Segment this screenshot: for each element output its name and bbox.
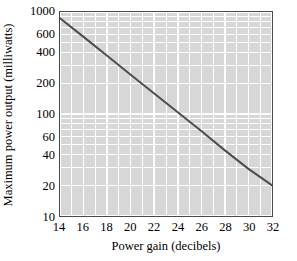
x-axis-tick-label: 32 xyxy=(267,221,280,234)
x-axis-tick-label: 30 xyxy=(243,221,256,234)
x-axis-tick-labels: 14161820222426283032 xyxy=(0,221,297,237)
x-axis-tick-label: 16 xyxy=(77,221,90,234)
chart-figure: Maximum power output (milliwatts) 102040… xyxy=(0,0,297,261)
y-axis-tick-label: 1000 xyxy=(30,5,55,18)
x-axis-tick-label: 20 xyxy=(124,221,137,234)
x-axis-title: Power gain (decibels) xyxy=(59,239,273,253)
x-axis-tick-label: 28 xyxy=(219,221,232,234)
y-axis-tick-label: 600 xyxy=(36,28,55,41)
y-axis-tick-label: 100 xyxy=(36,108,55,121)
x-axis-tick-label: 26 xyxy=(195,221,208,234)
plot-area xyxy=(59,11,273,217)
y-axis-tick-label: 200 xyxy=(36,77,55,90)
x-axis-tick-label: 14 xyxy=(53,221,66,234)
x-axis-tick-label: 22 xyxy=(148,221,161,234)
y-axis-tick-label: 20 xyxy=(43,180,56,193)
y-axis-tick-label: 40 xyxy=(43,149,56,162)
y-axis-tick-label: 400 xyxy=(36,46,55,59)
x-axis-tick-label: 18 xyxy=(100,221,113,234)
y-axis-tick-label: 60 xyxy=(43,131,56,144)
data-series-line xyxy=(60,12,272,216)
x-axis-tick-label: 24 xyxy=(172,221,185,234)
